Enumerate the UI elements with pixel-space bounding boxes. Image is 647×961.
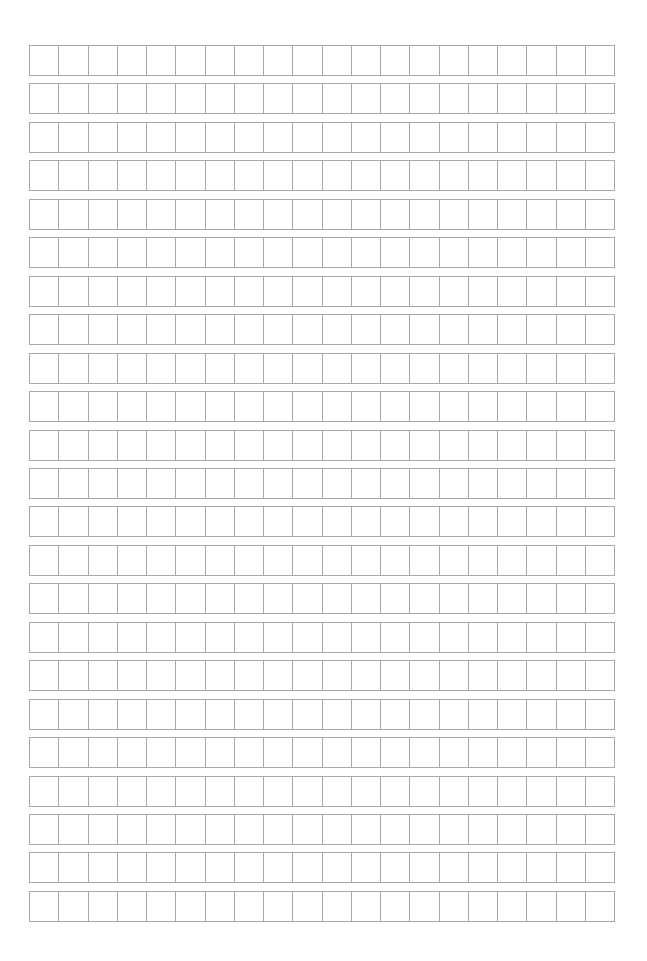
grid-cell [381, 700, 410, 729]
grid-row [29, 430, 615, 461]
grid-cell [118, 315, 147, 344]
grid-cell [89, 46, 118, 75]
grid-cell [264, 238, 293, 267]
grid-row [29, 45, 615, 76]
grid-cell [118, 469, 147, 498]
grid-cell [235, 161, 264, 190]
grid-cell [381, 584, 410, 613]
grid-cell [59, 546, 88, 575]
grid-cell [206, 584, 235, 613]
grid-cell [235, 853, 264, 882]
grid-cell [586, 392, 614, 421]
grid-cell [440, 469, 469, 498]
grid-cell [381, 623, 410, 652]
grid-cell [264, 546, 293, 575]
grid-cell [30, 584, 59, 613]
grid-cell [440, 123, 469, 152]
grid-cell [586, 738, 614, 767]
grid-cell [293, 546, 322, 575]
grid-cell [557, 84, 586, 113]
grid-cell [30, 277, 59, 306]
grid-cell [59, 853, 88, 882]
grid-cell [323, 315, 352, 344]
grid-cell [323, 507, 352, 536]
grid-cell [206, 777, 235, 806]
grid-row [29, 199, 615, 230]
grid-cell [410, 623, 439, 652]
grid-cell [264, 738, 293, 767]
grid-cell [469, 431, 498, 460]
grid-cell [118, 892, 147, 921]
grid-cell [527, 84, 556, 113]
grid-cell [59, 661, 88, 690]
grid-cell [586, 546, 614, 575]
grid-cell [440, 46, 469, 75]
grid-cell [323, 623, 352, 652]
grid-row [29, 391, 615, 422]
grid-cell [118, 200, 147, 229]
grid-cell [147, 815, 176, 844]
grid-row [29, 583, 615, 614]
grid-cell [30, 84, 59, 113]
grid-cell [235, 623, 264, 652]
grid-cell [59, 623, 88, 652]
grid-cell [293, 238, 322, 267]
grid-cell [498, 738, 527, 767]
grid-cell [264, 277, 293, 306]
grid-cell [410, 853, 439, 882]
grid-cell [235, 584, 264, 613]
grid-cell [323, 431, 352, 460]
grid-cell [586, 584, 614, 613]
grid-cell [410, 892, 439, 921]
grid-cell [527, 777, 556, 806]
grid-cell [410, 354, 439, 383]
grid-cell [206, 700, 235, 729]
grid-cell [89, 546, 118, 575]
grid-cell [235, 815, 264, 844]
grid-cell [527, 661, 556, 690]
grid-cell [469, 238, 498, 267]
grid-cell [469, 354, 498, 383]
grid-cell [440, 584, 469, 613]
grid-cell [352, 700, 381, 729]
grid-cell [557, 354, 586, 383]
grid-cell [527, 161, 556, 190]
grid-cell [352, 546, 381, 575]
grid-cell [59, 777, 88, 806]
grid-cell [206, 46, 235, 75]
grid-cell [527, 200, 556, 229]
grid-cell [89, 584, 118, 613]
grid-cell [176, 315, 205, 344]
grid-cell [410, 738, 439, 767]
grid-cell [586, 507, 614, 536]
grid-cell [59, 431, 88, 460]
grid-row [29, 83, 615, 114]
grid-cell [498, 84, 527, 113]
grid-cell [176, 161, 205, 190]
grid-cell [89, 200, 118, 229]
grid-cell [30, 238, 59, 267]
grid-cell [118, 700, 147, 729]
grid-cell [469, 123, 498, 152]
grid-cell [557, 200, 586, 229]
grid-cell [323, 661, 352, 690]
grid-cell [323, 738, 352, 767]
grid-cell [293, 892, 322, 921]
grid-cell [176, 123, 205, 152]
grid-cell [586, 700, 614, 729]
grid-cell [118, 777, 147, 806]
grid-cell [586, 123, 614, 152]
grid-cell [176, 431, 205, 460]
grid-cell [498, 546, 527, 575]
grid-cell [381, 315, 410, 344]
grid-cell [206, 853, 235, 882]
grid-cell [118, 123, 147, 152]
grid-cell [323, 238, 352, 267]
grid-cell [89, 738, 118, 767]
grid-cell [206, 661, 235, 690]
grid-cell [410, 815, 439, 844]
grid-cell [30, 892, 59, 921]
grid-cell [498, 892, 527, 921]
grid-cell [147, 623, 176, 652]
grid-cell [469, 392, 498, 421]
